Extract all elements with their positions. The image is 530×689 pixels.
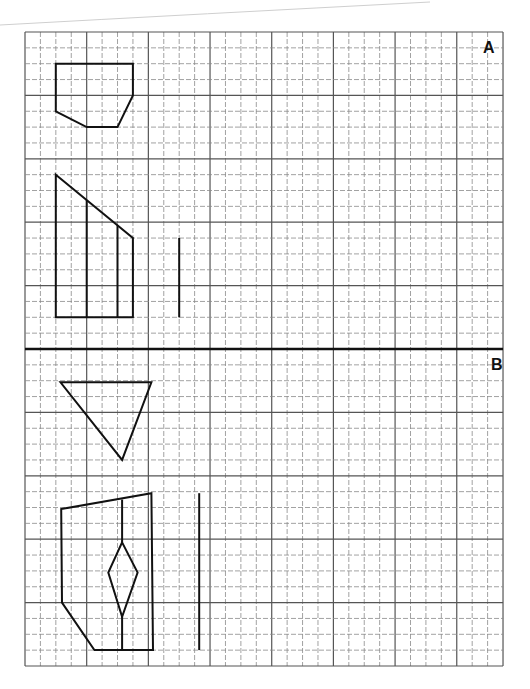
triangle-shape-b bbox=[61, 382, 152, 460]
section-label-b: B bbox=[491, 357, 503, 373]
body-outline-b bbox=[61, 493, 153, 650]
drawings bbox=[56, 64, 199, 650]
worksheet-canvas bbox=[0, 0, 530, 689]
paper-edge bbox=[0, 2, 430, 25]
section-label-a: A bbox=[483, 40, 495, 56]
prism-outline-a bbox=[56, 175, 133, 318]
